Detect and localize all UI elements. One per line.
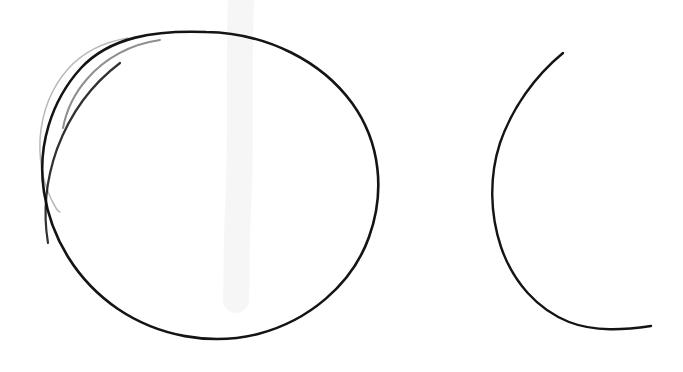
paper-smudge-artifact-secondary bbox=[236, 0, 241, 300]
sketch-canvas: Hand-drawn circle and open arc bbox=[0, 0, 683, 372]
sketch-drawing-surface: Hand-drawn circle and open arc bbox=[0, 0, 683, 372]
paper-background bbox=[0, 0, 683, 372]
